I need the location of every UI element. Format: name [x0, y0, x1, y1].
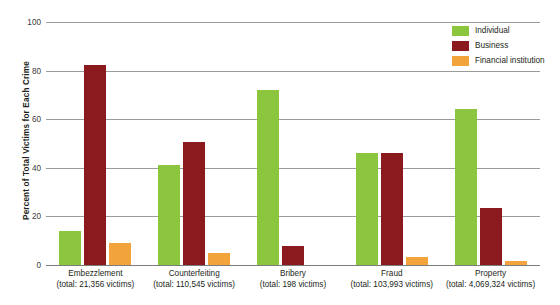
- bar-chart: Percent of Total Victims for Each Crime …: [0, 0, 560, 305]
- x-axis-label: Bribery(total: 198 victims): [244, 268, 343, 290]
- legend-label: Individual: [475, 26, 510, 35]
- y-tick-label: 40: [32, 163, 41, 172]
- bar: [257, 90, 279, 265]
- bar-group: [46, 22, 145, 265]
- legend-label: Business: [475, 41, 508, 50]
- legend-item: Financial institution: [452, 54, 545, 67]
- legend-swatch-icon: [452, 56, 469, 66]
- bars: [342, 22, 441, 265]
- x-axis-category-total: (total: 110,545 victims): [145, 279, 244, 290]
- bar: [505, 261, 527, 265]
- x-axis-category-total: (total: 198 victims): [244, 279, 343, 290]
- bar: [455, 109, 477, 265]
- bar: [158, 165, 180, 265]
- bar: [84, 65, 106, 265]
- x-axis-category-total: (total: 4,069,324 victims): [441, 279, 540, 290]
- x-axis-label: Embezzlement(total: 21,356 victims): [46, 268, 145, 290]
- bar: [208, 253, 230, 265]
- legend-swatch-icon: [452, 41, 469, 51]
- bar: [282, 246, 304, 265]
- bar-group: [244, 22, 343, 265]
- x-axis-label: Fraud(total: 103,993 victims): [342, 268, 441, 290]
- legend-label: Financial institution: [475, 56, 545, 65]
- y-tick-label: 60: [32, 115, 41, 124]
- x-axis-category-name: Property: [441, 268, 540, 279]
- bar-group: [145, 22, 244, 265]
- x-axis-label: Property(total: 4,069,324 victims): [441, 268, 540, 290]
- bars: [244, 22, 343, 265]
- gridline-0: 0: [46, 265, 540, 266]
- legend-swatch-icon: [452, 26, 469, 36]
- bar: [109, 243, 131, 265]
- y-tick-label: 80: [32, 66, 41, 75]
- x-axis-category-name: Embezzlement: [46, 268, 145, 279]
- bar: [183, 142, 205, 265]
- bar: [356, 153, 378, 265]
- x-axis-category-total: (total: 21,356 victims): [46, 279, 145, 290]
- x-axis-label: Counterfeiting(total: 110,545 victims): [145, 268, 244, 290]
- bars: [145, 22, 244, 265]
- y-tick-label: 20: [32, 212, 41, 221]
- legend-item: Individual: [452, 24, 545, 37]
- bar-group: [342, 22, 441, 265]
- bar: [406, 257, 428, 266]
- x-axis-category-name: Bribery: [244, 268, 343, 279]
- y-tick-label: 0: [36, 261, 41, 270]
- y-axis-title: Percent of Total Victims for Each Crime: [22, 31, 31, 251]
- y-tick-label: 100: [27, 18, 41, 27]
- x-axis-category-total: (total: 103,993 victims): [342, 279, 441, 290]
- legend-item: Business: [452, 39, 545, 52]
- x-axis-category-name: Counterfeiting: [145, 268, 244, 279]
- bars: [46, 22, 145, 265]
- bar: [59, 231, 81, 265]
- x-axis-labels: Embezzlement(total: 21,356 victims)Count…: [46, 268, 540, 290]
- x-axis-category-name: Fraud: [342, 268, 441, 279]
- bar: [381, 153, 403, 265]
- bar: [480, 208, 502, 265]
- legend: IndividualBusinessFinancial institution: [452, 24, 545, 69]
